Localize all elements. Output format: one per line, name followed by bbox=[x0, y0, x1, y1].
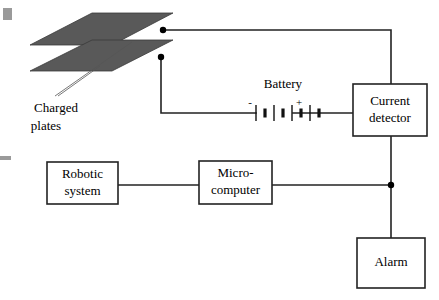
box-alarm[interactable]: Alarm bbox=[357, 238, 425, 288]
wire-bottom-plate-to-battery bbox=[161, 57, 256, 113]
battery-label: Battery bbox=[264, 76, 303, 91]
box-label-current-detector-line2: detector bbox=[369, 110, 412, 125]
box-current-detector[interactable]: Currentdetector bbox=[353, 84, 427, 136]
battery-negative-label: - bbox=[248, 96, 252, 108]
charged-plates-label-line2: plates bbox=[31, 118, 61, 133]
charged-plates-label-line1: Charged bbox=[34, 100, 78, 115]
scan-artifact-left-edge bbox=[0, 156, 11, 160]
junction-top-plate-terminal bbox=[160, 27, 166, 33]
box-label-alarm-line1: Alarm bbox=[374, 254, 407, 269]
junction-bottom-plate-terminal bbox=[158, 54, 164, 60]
circuit-diagram: Charged plates Battery - + Currentdetect… bbox=[0, 0, 439, 300]
component-boxes: CurrentdetectorRoboticsystemMicro-comput… bbox=[47, 84, 427, 288]
battery-symbol bbox=[256, 105, 319, 121]
diagram-canvas: Charged plates Battery - + Currentdetect… bbox=[0, 0, 439, 300]
box-label-micro-computer-line1: Micro- bbox=[217, 165, 253, 180]
box-label-current-detector-line1: Current bbox=[370, 93, 410, 108]
junction-alarm-branch bbox=[388, 182, 394, 188]
box-label-robotic-system-line1: Robotic bbox=[62, 166, 103, 181]
box-robotic-system[interactable]: Roboticsystem bbox=[47, 162, 118, 204]
battery-positive-label: + bbox=[296, 96, 302, 108]
scan-artifact-top-left bbox=[3, 8, 12, 20]
box-label-robotic-system-line2: system bbox=[64, 183, 100, 198]
box-micro-computer[interactable]: Micro-computer bbox=[199, 161, 272, 204]
box-label-micro-computer-line2: computer bbox=[211, 182, 261, 197]
